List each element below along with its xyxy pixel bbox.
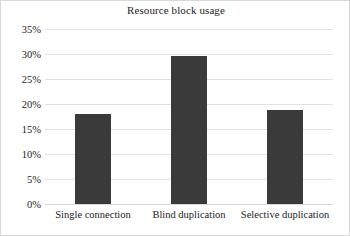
y-tick-label: 5% [1, 174, 41, 185]
y-axis: 0%5%10%15%20%25%30%35% [1, 29, 41, 204]
bar [267, 110, 303, 204]
gridline [45, 54, 333, 55]
y-tick-label: 10% [1, 149, 41, 160]
bar [171, 56, 207, 204]
chart-title: Resource block usage [1, 4, 350, 16]
y-tick-label: 0% [1, 199, 41, 210]
y-tick-label: 25% [1, 74, 41, 85]
x-tick-label: Selective duplication [241, 209, 329, 220]
x-tick-label: Single connection [55, 209, 131, 220]
axis-baseline [45, 204, 333, 205]
y-tick-label: 15% [1, 124, 41, 135]
gridline [45, 29, 333, 30]
x-tick-label: Blind duplication [152, 209, 225, 220]
y-tick-label: 30% [1, 49, 41, 60]
y-tick-label: 20% [1, 99, 41, 110]
bar [75, 114, 111, 204]
x-axis: Single connectionBlind duplicationSelect… [45, 207, 333, 229]
y-tick-label: 35% [1, 24, 41, 35]
plot-area [45, 29, 333, 204]
bar-chart: Resource block usage 0%5%10%15%20%25%30%… [0, 0, 350, 236]
